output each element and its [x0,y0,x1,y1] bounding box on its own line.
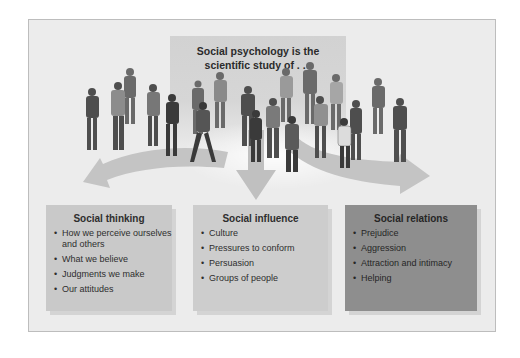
box-title: Social influence [193,213,328,224]
title-line-1: Social psychology is the [170,44,346,58]
list-item: Culture [201,228,328,239]
list-item: Judgments we make [54,269,172,280]
list-item: Attraction and intimacy [353,258,477,269]
list-item: Groups of people [201,273,328,284]
list-item: Prejudice [353,228,477,239]
list-item: Pressures to conform [201,243,328,254]
box-social-relations: Social relations Prejudice Aggression At… [345,205,477,311]
list-item: Our attitudes [54,284,172,295]
list-item: What we believe [54,254,172,265]
box-title: Social relations [345,213,477,224]
box-list: How we perceive ourselves and others Wha… [46,228,172,295]
people-figures-icon [86,62,407,172]
crowd-illustration [78,62,418,174]
list-item: Aggression [353,243,477,254]
box-social-thinking: Social thinking How we perceive ourselve… [46,205,172,311]
list-item: How we perceive ourselves and others [54,228,172,250]
box-list: Prejudice Aggression Attraction and inti… [345,228,477,284]
box-list: Culture Pressures to conform Persuasion … [193,228,328,284]
box-social-influence: Social influence Culture Pressures to co… [193,205,328,311]
box-title: Social thinking [46,213,172,224]
list-item: Persuasion [201,258,328,269]
list-item: Helping [353,273,477,284]
